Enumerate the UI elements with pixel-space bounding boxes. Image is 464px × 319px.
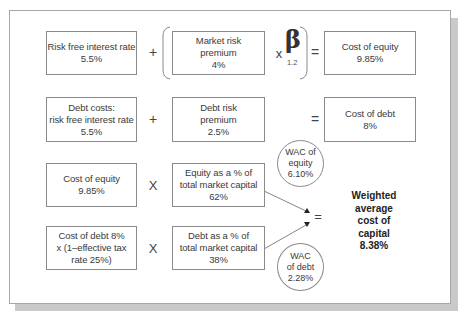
- times-operator: x: [272, 47, 286, 61]
- debt-costs-label-1: Debt costs:: [68, 102, 114, 114]
- cost-of-equity-input-label: Cost of equity: [63, 173, 120, 185]
- arrowhead-down-icon: [304, 222, 310, 227]
- debt-risk-premium-box: Debt risk premium 2.5%: [172, 97, 265, 142]
- debt-risk-label-1: Debt risk: [200, 102, 237, 114]
- market-risk-premium-box: Market risk premium 4%: [172, 31, 265, 75]
- cost-of-equity-input-value: 9.85%: [78, 185, 104, 197]
- multiply-operator: X: [146, 179, 160, 193]
- debt-share-box: Debt as a % of total market capital 38%: [172, 226, 265, 270]
- debt-costs-box: Debt costs: risk free interest rate 5.5%: [46, 97, 137, 142]
- debt-risk-label-2: premium: [200, 114, 236, 126]
- debt-share-label-2: total market capital: [180, 242, 258, 254]
- beta-symbol: β: [285, 26, 301, 54]
- equity-share-box: Equity as a % of total market capital 62…: [172, 163, 265, 207]
- cost-of-equity-box: Cost of equity 9.85%: [324, 31, 416, 75]
- equity-share-label-2: total market capital: [180, 179, 258, 191]
- cost-of-equity-input-box: Cost of equity 9.85%: [46, 163, 137, 207]
- wacc-line-2: average: [343, 203, 405, 216]
- debt-risk-value: 2.5%: [208, 126, 229, 138]
- after-tax-debt-line-2: x (1–effective tax: [57, 242, 127, 254]
- wacc-line-3: cost of: [343, 215, 405, 228]
- wacc-result: Weighted average cost of capital 8.38%: [343, 190, 405, 253]
- wacc-line-4: capital: [343, 228, 405, 241]
- debt-costs-label-2: risk free interest rate: [49, 114, 133, 126]
- equals-operator: =: [308, 112, 322, 126]
- wacc-value: 8.38%: [343, 240, 405, 253]
- wac-debt-label-2: of debt: [287, 262, 315, 273]
- market-risk-label-1: Market risk: [196, 35, 241, 47]
- multiply-operator: X: [146, 242, 160, 256]
- debt-share-value: 38%: [209, 254, 228, 266]
- plus-operator: +: [146, 112, 160, 126]
- after-tax-debt-line-3: rate 25%): [71, 254, 111, 266]
- cost-of-equity-value: 9.85%: [357, 53, 383, 65]
- wac-equity-label-2: equity: [288, 158, 312, 169]
- close-bracket-icon: [300, 27, 307, 79]
- debt-share-label-1: Debt as a % of: [188, 230, 249, 242]
- result-equals-operator: =: [311, 210, 325, 224]
- market-risk-label-2: premium: [200, 47, 236, 59]
- cost-of-equity-label: Cost of equity: [342, 41, 399, 53]
- equity-share-label-1: Equity as a % of: [185, 167, 252, 179]
- wac-debt-label-1: WAC: [290, 251, 311, 262]
- wac-debt-value: 2.28%: [288, 273, 314, 284]
- cost-of-debt-label: Cost of debt: [345, 108, 395, 120]
- wac-equity-circle: WAC of equity 6.10%: [277, 140, 324, 187]
- wac-equity-value: 6.10%: [288, 169, 314, 180]
- wacc-line-1: Weighted: [343, 190, 405, 203]
- open-bracket-icon: [163, 27, 170, 79]
- debt-costs-value: 5.5%: [81, 126, 102, 138]
- after-tax-cost-of-debt-box: Cost of debt 8% x (1–effective tax rate …: [46, 226, 137, 270]
- market-risk-value: 4%: [212, 59, 226, 71]
- wac-debt-circle: WAC of debt 2.28%: [277, 243, 324, 291]
- equity-arrow-line: [264, 191, 306, 211]
- wac-equity-label-1: WAC of: [285, 147, 316, 158]
- equity-share-value: 62%: [209, 191, 228, 203]
- cost-of-debt-box: Cost of debt 8%: [324, 97, 416, 142]
- cost-of-debt-value: 8%: [363, 120, 377, 132]
- after-tax-debt-line-1: Cost of debt 8%: [58, 230, 124, 242]
- beta-value: 1.2: [287, 58, 297, 67]
- equals-operator: =: [308, 45, 322, 59]
